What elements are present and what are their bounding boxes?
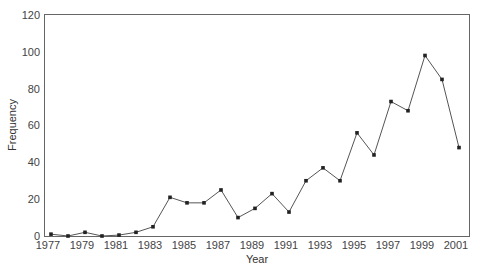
x-tick-label: 1989	[240, 239, 264, 251]
data-point	[66, 234, 70, 238]
x-tick-label: 1985	[172, 239, 196, 251]
data-point	[372, 153, 376, 157]
data-point	[355, 131, 359, 135]
data-point	[49, 232, 53, 236]
y-axis-ticks: 020406080100120	[22, 9, 40, 242]
data-point-markers	[49, 54, 461, 238]
data-point	[117, 233, 121, 237]
x-tick-label: 1979	[70, 239, 94, 251]
x-tick-label: 1983	[138, 239, 162, 251]
y-tick-label: 100	[22, 46, 40, 58]
data-point	[423, 54, 427, 58]
data-point	[151, 225, 155, 229]
data-point	[100, 234, 104, 238]
x-tick-label: 1993	[308, 239, 332, 251]
x-tick-label: 2001	[444, 239, 468, 251]
data-point	[270, 192, 274, 196]
data-point	[83, 231, 87, 235]
x-tick-label: 1981	[104, 239, 128, 251]
x-tick-label: 1987	[206, 239, 230, 251]
x-axis-ticks: 1977197919811983198519871989199119931995…	[36, 239, 468, 251]
y-tick-label: 20	[28, 193, 40, 205]
y-axis-label: Frequency	[6, 99, 18, 151]
x-tick-label: 1997	[376, 239, 400, 251]
data-point	[185, 201, 189, 205]
y-tick-label: 40	[28, 156, 40, 168]
x-axis-label: Year	[246, 253, 269, 265]
data-point	[389, 100, 393, 104]
x-tick-label: 1999	[410, 239, 434, 251]
x-tick-label: 1995	[342, 239, 366, 251]
data-point	[219, 188, 223, 192]
data-point	[406, 109, 410, 113]
data-point	[440, 78, 444, 82]
data-point	[253, 207, 257, 211]
data-point	[457, 146, 461, 150]
data-point	[202, 201, 206, 205]
data-point	[304, 179, 308, 183]
data-point	[236, 216, 240, 220]
x-tick-label: 1991	[274, 239, 298, 251]
y-tick-label: 80	[28, 83, 40, 95]
line-chart: 020406080100120 197719791981198319851987…	[0, 0, 480, 276]
data-point	[134, 231, 138, 235]
data-point	[168, 196, 172, 200]
plot-frame	[45, 15, 470, 237]
y-tick-label: 60	[28, 119, 40, 131]
data-point	[321, 166, 325, 170]
data-point	[287, 210, 291, 214]
x-tick-label: 1977	[36, 239, 60, 251]
data-point	[338, 179, 342, 183]
y-tick-label: 120	[22, 9, 40, 21]
